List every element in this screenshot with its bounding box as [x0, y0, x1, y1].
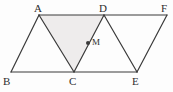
segment-A-B — [11, 15, 39, 72]
segment-D-E — [104, 15, 137, 72]
vertex-label-D: D — [99, 3, 107, 14]
vertex-label-A: A — [34, 3, 42, 14]
geometry-figure: A D F B C E M — [0, 0, 173, 92]
vertex-label-F: F — [161, 3, 167, 14]
vertex-label-E: E — [132, 76, 139, 87]
vertex-label-C: C — [69, 76, 76, 87]
point-label-M: M — [92, 38, 100, 47]
geometry-canvas — [0, 0, 173, 92]
vertex-label-B: B — [3, 76, 10, 87]
segment-F-E — [137, 15, 167, 72]
interior-point-markers — [86, 41, 90, 45]
point-marker-M — [86, 41, 90, 45]
